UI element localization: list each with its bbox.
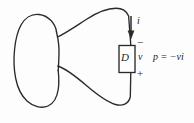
terminal-negative-sign: − [137,37,143,48]
current-arrow-head [128,31,135,40]
power-equation-label: p = −vi [153,52,184,62]
terminal-positive-sign: + [137,68,143,79]
network-blob-right-edge [57,32,60,71]
network-blob-outline [14,14,59,107]
circuit-figure: i D − v + p = −vi [0,0,194,123]
voltage-label: v [138,52,142,62]
element-label: D [121,52,129,63]
current-label: i [137,16,140,26]
top-connecting-wire [58,8,131,45]
